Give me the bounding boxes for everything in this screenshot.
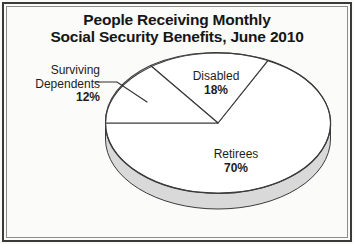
slice-label-retirees-percent: 70% [198,162,274,176]
slice-label-retirees-name: Retirees [198,148,274,162]
slice-label-disabled: Disabled 18% [178,70,254,97]
pie-chart-graphic [0,0,354,244]
slice-label-surviving-dependents-percent: 12% [8,91,100,105]
slice-label-retirees: Retirees 70% [198,148,274,175]
slice-label-surviving-dependents-name-2: Dependents [8,78,100,92]
slice-label-disabled-name: Disabled [178,70,254,84]
chart-screenshot: People Receiving Monthly Social Security… [0,0,354,244]
slice-label-disabled-percent: 18% [178,84,254,98]
slice-label-surviving-dependents: Surviving Dependents 12% [8,64,100,105]
slice-label-surviving-dependents-name-1: Surviving [8,64,100,78]
